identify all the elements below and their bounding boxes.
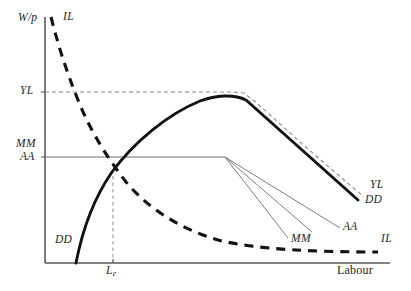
curve-label-aa-right: AA [343, 221, 358, 233]
curve-label-dd-right: DD [365, 194, 382, 206]
y-axis-title: W/p [18, 12, 37, 24]
leader-line-to-mm [225, 157, 288, 238]
x-tick-label-le-base: L [106, 264, 113, 276]
curve-label-il-top: IL [63, 11, 74, 23]
plot-canvas [0, 0, 411, 291]
x-tick-label-le: Le [106, 265, 116, 278]
x-axis-title: Labour [337, 264, 373, 276]
y-tick-label-yl: YL [20, 85, 33, 97]
leader-line-to-il [225, 157, 312, 232]
series-il-curve [51, 17, 378, 252]
curve-label-mm-right: MM [291, 233, 311, 245]
labour-market-diagram: W/p IL YL MM AA DD YL DD AA MM IL Labour… [0, 0, 411, 291]
curve-label-dd-origin: DD [55, 234, 72, 246]
y-tick-label-mm: MM [16, 138, 36, 150]
series-dd-curve [76, 96, 358, 263]
curve-label-yl-right: YL [370, 179, 383, 191]
y-tick-label-aa: AA [20, 151, 35, 163]
x-tick-label-le-subscript: e [113, 269, 117, 278]
curve-label-il-right: IL [381, 233, 392, 245]
series-yl-guide [45, 92, 364, 197]
